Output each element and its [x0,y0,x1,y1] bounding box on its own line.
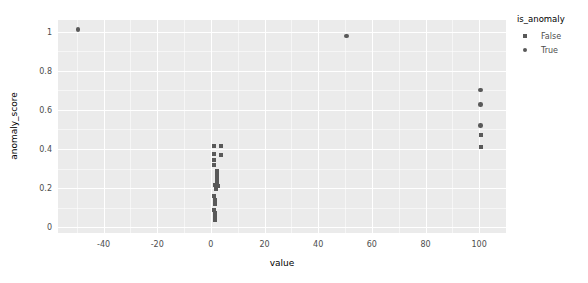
data-point-false [213,218,217,222]
legend-item-true[interactable]: True [517,43,583,57]
x-tick-label: 100 [472,240,487,249]
data-point-true [478,123,483,128]
gridline-minor-horizontal [58,129,506,130]
y-tick-label: 0.8 [26,66,52,75]
gridline-major-vertical [372,20,373,233]
gridline-minor-horizontal [58,208,506,209]
data-point-true [478,88,483,93]
scatter-plot-figure: 00.20.40.60.81 -40-20020406080100 value … [0,0,588,283]
data-point-false [212,144,216,148]
gridline-minor-horizontal [58,169,506,170]
x-tick-label: -20 [151,240,164,249]
data-point-false [212,163,216,167]
y-tick-label: 1 [26,27,52,36]
square-marker-icon [517,34,533,38]
gridline-major-horizontal [58,110,506,111]
data-point-true [344,34,349,39]
x-tick-label: 60 [367,240,377,249]
gridline-major-horizontal [58,188,506,189]
x-tick-label: -40 [97,240,110,249]
y-tick-label: 0.4 [26,144,52,153]
legend-item-false[interactable]: False [517,29,583,43]
gridline-major-vertical [318,20,319,233]
legend-item-true-label: True [541,46,558,55]
gridline-major-horizontal [58,227,506,228]
data-point-true [76,27,81,32]
gridline-major-horizontal [58,149,506,150]
data-point-false [212,158,216,162]
data-point-false [219,153,223,157]
y-tick-label: 0.6 [26,105,52,114]
gridline-minor-horizontal [58,51,506,52]
x-tick-label: 40 [313,240,323,249]
data-point-false [212,152,216,156]
x-axis-title: value [58,258,506,268]
legend-title: is_anomaly [517,14,583,24]
data-point-false [219,144,223,148]
legend: is_anomaly False True [517,14,583,57]
data-point-true [478,102,483,107]
data-point-false [214,187,218,191]
y-tick-label: 0.2 [26,184,52,193]
gridline-major-horizontal [58,71,506,72]
data-point-false [479,145,483,149]
gridline-major-vertical [265,20,266,233]
gridline-minor-horizontal [58,90,506,91]
data-point-false [479,133,483,137]
gridline-major-vertical [426,20,427,233]
x-tick-label: 0 [208,240,213,249]
data-point-false [213,202,217,206]
x-tick-label: 20 [259,240,269,249]
gridline-major-horizontal [58,32,506,33]
gridline-major-vertical [157,20,158,233]
y-tick-label: 0 [26,223,52,232]
y-axis-title: anomaly_score [9,92,19,160]
legend-item-false-label: False [541,32,561,41]
plot-panel [58,20,506,233]
gridline-major-vertical [104,20,105,233]
x-tick-label: 80 [420,240,430,249]
circle-marker-icon [517,48,533,53]
